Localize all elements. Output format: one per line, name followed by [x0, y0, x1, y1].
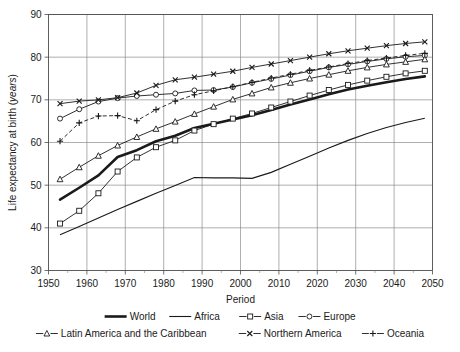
data-point-marker	[326, 88, 331, 93]
series-oceania	[57, 50, 428, 144]
data-point-marker	[172, 119, 178, 125]
legend-item-world[interactable]: World	[105, 311, 156, 322]
data-point-marker	[370, 330, 376, 336]
legend-item-latin-america-and-the-caribbean[interactable]: Latin America and the Caribbean	[36, 328, 207, 339]
series-layer	[57, 39, 428, 234]
series-world	[60, 76, 425, 199]
series-path	[60, 76, 425, 199]
data-point-marker	[95, 113, 101, 119]
data-point-marker	[154, 92, 159, 97]
data-point-marker	[173, 91, 178, 96]
data-point-marker	[115, 142, 121, 148]
x-tick-label: 1980	[153, 278, 176, 289]
data-point-marker	[154, 83, 159, 88]
data-point-marker	[191, 92, 197, 98]
data-point-marker	[58, 221, 63, 226]
series-asia	[58, 68, 428, 226]
chart-legend: WorldAfricaAsiaEuropeLatin America and t…	[36, 311, 425, 339]
x-tick-label: 1970	[114, 278, 137, 289]
legend-item-oceania[interactable]: Oceania	[362, 328, 425, 339]
data-point-marker	[422, 68, 427, 73]
x-axis-title: Period	[226, 294, 255, 305]
series-africa	[60, 118, 425, 234]
data-point-marker	[76, 164, 82, 170]
data-point-marker	[365, 78, 370, 83]
x-tick-label: 2030	[345, 278, 368, 289]
data-point-marker	[115, 113, 121, 119]
axis-labels: PeriodLife expectancy at birth (years)	[7, 74, 255, 304]
data-point-marker	[96, 191, 101, 196]
y-tick-label: 80	[30, 52, 42, 63]
x-tick-label: 2020	[306, 278, 329, 289]
y-tick-label: 30	[30, 265, 42, 276]
data-point-marker	[250, 111, 255, 116]
x-tick-label: 2040	[383, 278, 406, 289]
data-point-marker	[211, 104, 217, 110]
legend-label: Asia	[264, 311, 284, 322]
data-point-marker	[230, 116, 235, 121]
data-point-marker	[288, 99, 293, 104]
grid-layer	[49, 15, 433, 271]
legend-item-northern-america[interactable]: Northern America	[239, 328, 342, 339]
legend-label: Northern America	[264, 328, 342, 339]
series-europe	[58, 53, 428, 121]
axis-ticks: 3040506070809019501960197019801990200020…	[30, 9, 444, 288]
data-point-marker	[77, 107, 82, 112]
legend-label: Oceania	[387, 328, 425, 339]
y-tick-label: 60	[30, 137, 42, 148]
legend-label: Latin America and the Caribbean	[61, 328, 207, 339]
data-point-marker	[76, 120, 82, 126]
data-point-marker	[403, 71, 408, 76]
y-tick-label: 50	[30, 180, 42, 191]
data-point-marker	[346, 82, 351, 87]
legend-label: World	[130, 311, 156, 322]
y-axis-title-unit: years	[7, 77, 18, 102]
data-point-marker	[154, 145, 159, 150]
data-point-marker	[172, 98, 178, 104]
x-tick-label: 2050	[421, 278, 444, 289]
x-tick-label: 1990	[191, 278, 214, 289]
data-point-marker	[211, 122, 216, 127]
x-tick-label: 1950	[37, 278, 60, 289]
data-point-marker	[96, 153, 102, 159]
series-path	[60, 55, 425, 118]
y-axis-title: Life expectancy at birth (years)	[7, 74, 18, 211]
data-point-marker	[307, 93, 312, 98]
data-point-marker	[173, 138, 178, 143]
y-axis-title-main: Life expectancy at birth (	[7, 101, 18, 211]
y-tick-label: 70	[30, 94, 42, 105]
data-point-marker	[58, 116, 63, 121]
x-tick-label: 2010	[268, 278, 291, 289]
y-tick-label: 90	[30, 9, 42, 20]
data-point-marker	[115, 169, 120, 174]
legend-item-africa[interactable]: Africa	[169, 311, 220, 322]
data-point-marker	[384, 74, 389, 79]
data-point-marker	[153, 107, 159, 113]
data-point-marker	[153, 126, 159, 132]
series-path	[60, 42, 425, 104]
data-point-marker	[248, 314, 253, 319]
y-tick-label: 40	[30, 222, 42, 233]
data-point-marker	[134, 134, 140, 140]
legend-item-europe[interactable]: Europe	[298, 311, 356, 322]
data-point-marker	[134, 118, 140, 124]
chart-canvas: 3040506070809019501960197019801990200020…	[0, 0, 460, 352]
data-point-marker	[269, 105, 274, 110]
data-point-marker	[77, 208, 82, 213]
data-point-marker	[192, 111, 198, 117]
data-point-marker	[57, 176, 63, 182]
data-point-marker	[192, 128, 197, 133]
series-path	[60, 118, 425, 234]
legend-item-asia[interactable]: Asia	[239, 311, 284, 322]
x-tick-label: 1960	[76, 278, 99, 289]
legend-label: Europe	[323, 311, 356, 322]
data-point-marker	[307, 314, 312, 319]
legend-label: Africa	[194, 311, 220, 322]
life-expectancy-chart: 3040506070809019501960197019801990200020…	[0, 0, 460, 352]
data-point-marker	[134, 155, 139, 160]
y-axis-title-close: )	[7, 74, 18, 77]
x-tick-label: 2000	[229, 278, 252, 289]
